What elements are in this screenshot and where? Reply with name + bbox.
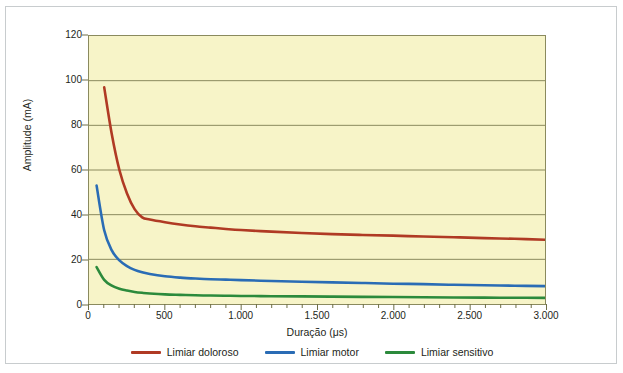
y-tick-label: 0	[36, 300, 82, 310]
y-tick-label: 40	[36, 210, 82, 220]
legend-item-2[interactable]: Limiar sensitivo	[385, 346, 493, 358]
x-axis-ticks	[88, 304, 548, 311]
y-axis-tick-labels: 020406080100120	[32, 35, 82, 305]
legend-label: Limiar motor	[301, 346, 359, 358]
chart-legend: Limiar dolorosoLimiar motorLimiar sensit…	[6, 346, 618, 358]
x-axis-title: Duração (μs)	[88, 326, 546, 338]
series-line-1	[97, 186, 545, 287]
x-tick-label: 1.500	[304, 310, 329, 321]
chart-canvas	[89, 36, 545, 304]
y-axis-ticks	[82, 34, 88, 306]
figure-frame: 020406080100120 Amplitude (mA) 05001.000…	[5, 6, 617, 364]
legend-label: Limiar sensitivo	[421, 346, 493, 358]
x-tick-label: 1.000	[228, 310, 253, 321]
x-tick-label: 2.500	[457, 310, 482, 321]
x-tick-label: 2.000	[381, 310, 406, 321]
y-tick-label: 120	[36, 30, 82, 40]
plot-area	[88, 35, 546, 305]
legend-item-1[interactable]: Limiar motor	[265, 346, 359, 358]
y-tick-label: 80	[36, 120, 82, 130]
y-tick-label: 100	[36, 75, 82, 85]
x-tick-label: 3.000	[533, 310, 558, 321]
x-axis-tick-labels: 05001.0001.5002.0002.5003.000	[88, 310, 546, 324]
y-tick-label: 60	[36, 165, 82, 175]
x-tick-label: 500	[156, 310, 173, 321]
legend-item-0[interactable]: Limiar doloroso	[131, 346, 239, 358]
legend-color-swatch	[265, 351, 295, 354]
legend-color-swatch	[385, 351, 415, 354]
legend-color-swatch	[131, 351, 161, 354]
series-line-0	[104, 87, 545, 239]
y-tick-label: 20	[36, 255, 82, 265]
legend-label: Limiar doloroso	[167, 346, 239, 358]
x-tick-label: 0	[85, 310, 91, 321]
y-axis-title: Amplitude (mA)	[21, 70, 33, 200]
